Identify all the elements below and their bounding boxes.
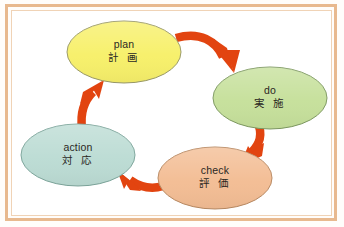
- node-do[interactable]: [213, 67, 327, 129]
- node-action[interactable]: [21, 124, 135, 186]
- node-plan[interactable]: [67, 21, 181, 83]
- node-check[interactable]: [158, 147, 272, 209]
- arrow-action-to-plan: [80, 80, 104, 128]
- diagram-canvas: [0, 0, 344, 227]
- arrow-plan-to-do: [176, 36, 240, 73]
- pdca-diagram-page: plan 計 画 do 実 施 check 評 価 action 対 応: [0, 0, 344, 227]
